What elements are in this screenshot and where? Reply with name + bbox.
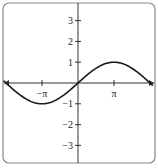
y-tick-label: −2 [62,119,73,130]
y-tick-label: 1 [68,57,73,68]
y-tick-label: 2 [68,36,73,47]
y-tick-label: −1 [62,98,73,109]
x-tick-label: −π [37,88,48,99]
sine-graph: 321−1−2−3−ππ [0,0,158,168]
x-tick-label: π [111,88,116,99]
y-tick-label: −3 [62,140,73,151]
y-tick-label: 3 [68,15,73,26]
